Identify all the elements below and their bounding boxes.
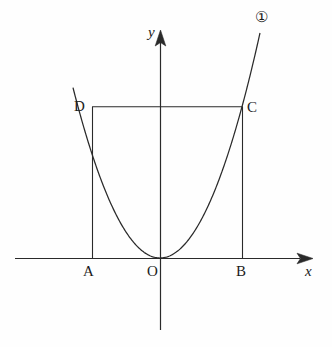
parabola-polyline — [73, 33, 260, 258]
geometry-figure: D C A O B y x ① — [0, 0, 332, 347]
curve-marker-label: ① — [255, 10, 268, 25]
x-axis — [15, 253, 313, 264]
point-label-b: B — [236, 264, 246, 279]
point-label-c: C — [247, 100, 257, 115]
y-axis — [155, 30, 166, 330]
origin-label: O — [147, 264, 158, 279]
y-axis-label: y — [148, 25, 155, 40]
point-label-d: D — [74, 99, 85, 114]
point-label-a: A — [83, 264, 94, 279]
x-axis-label: x — [305, 264, 312, 279]
rectangle-abcd — [92, 107, 243, 259]
parabola-curve — [73, 33, 260, 258]
figure-canvas — [0, 0, 332, 347]
